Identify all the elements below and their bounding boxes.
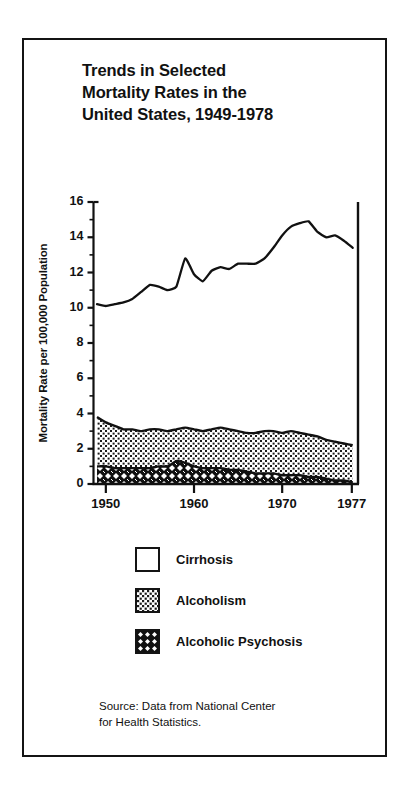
legend-swatch-alcoholism bbox=[135, 588, 160, 613]
y-tick-label: 2 bbox=[58, 441, 84, 455]
legend-label-alcoholism: Alcoholism bbox=[176, 593, 246, 608]
legend-item: Cirrhosis bbox=[135, 543, 302, 575]
x-tick-label: 1950 bbox=[82, 496, 130, 511]
y-tick-label: 6 bbox=[58, 370, 84, 384]
x-tick-label: 1977 bbox=[328, 496, 376, 511]
y-tick-label: 0 bbox=[58, 476, 84, 490]
line-cirrhosis bbox=[97, 221, 353, 306]
y-tick-label: 10 bbox=[58, 300, 84, 314]
x-tick-label: 1970 bbox=[258, 496, 306, 511]
source-note: Source: Data from National Center for He… bbox=[99, 698, 349, 731]
y-tick-label: 4 bbox=[58, 406, 84, 420]
legend-item: Alcoholism bbox=[135, 584, 302, 616]
y-tick-label: 8 bbox=[58, 335, 84, 349]
y-tick-label: 14 bbox=[58, 229, 84, 243]
figure-canvas: Trends in Selected Mortality Rates in th… bbox=[0, 0, 409, 795]
x-tick-label: 1960 bbox=[170, 496, 218, 511]
plot-area bbox=[0, 0, 409, 795]
chart-legend: Cirrhosis Alcoholism Alcoholic Psychosis bbox=[135, 543, 302, 666]
legend-swatch-alcoholic-psychosis bbox=[135, 629, 160, 654]
legend-label-cirrhosis: Cirrhosis bbox=[176, 552, 233, 567]
y-tick-label: 12 bbox=[58, 265, 84, 279]
legend-label-alcoholic-psychosis: Alcoholic Psychosis bbox=[176, 634, 302, 649]
legend-item: Alcoholic Psychosis bbox=[135, 625, 302, 657]
legend-swatch-cirrhosis bbox=[135, 547, 160, 572]
plot-series-group bbox=[88, 202, 360, 493]
y-tick-label: 16 bbox=[58, 194, 84, 208]
